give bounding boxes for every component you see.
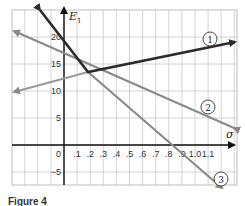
x-tick-label: .6 bbox=[139, 149, 147, 159]
x-tick-label: .3 bbox=[100, 149, 108, 159]
svg-text:1: 1 bbox=[207, 35, 213, 45]
y-axis-label: E1 bbox=[68, 10, 82, 25]
series-3-label: 3 bbox=[214, 172, 228, 186]
line-2 bbox=[14, 31, 234, 128]
line-3 bbox=[88, 72, 222, 188]
figure-caption: Figure 4 bbox=[8, 196, 47, 206]
y-tick-labels: 20151050−5 bbox=[51, 32, 61, 177]
series-2-label: 2 bbox=[201, 100, 215, 114]
svg-text:2: 2 bbox=[205, 103, 211, 113]
x-tick-label: .2 bbox=[86, 149, 94, 159]
x-tick-label: .7 bbox=[152, 149, 160, 159]
svg-text:3: 3 bbox=[218, 175, 224, 185]
y-tick-label: 15 bbox=[51, 59, 61, 69]
chart: E1 σ 20151050−5 .1.2.3.4.5.6.7.8.91.01.1… bbox=[0, 0, 245, 206]
x-tick-label: .8 bbox=[165, 149, 173, 159]
series-1-label: 1 bbox=[203, 32, 217, 46]
x-tick-label: .1 bbox=[73, 149, 81, 159]
x-tick-label: 1.0 bbox=[189, 149, 202, 159]
x-tick-label: 1.1 bbox=[202, 149, 215, 159]
y-tick-label: 10 bbox=[51, 86, 61, 96]
x-tick-label: .4 bbox=[113, 149, 121, 159]
x-tick-label: .5 bbox=[126, 149, 134, 159]
x-axis-label: σ bbox=[226, 128, 234, 141]
y-tick-label: 5 bbox=[56, 113, 61, 123]
y-tick-label: −5 bbox=[51, 167, 61, 177]
y-tick-label: 0 bbox=[56, 149, 61, 159]
x-tick-labels: .1.2.3.4.5.6.7.8.91.01.1 bbox=[73, 149, 214, 159]
